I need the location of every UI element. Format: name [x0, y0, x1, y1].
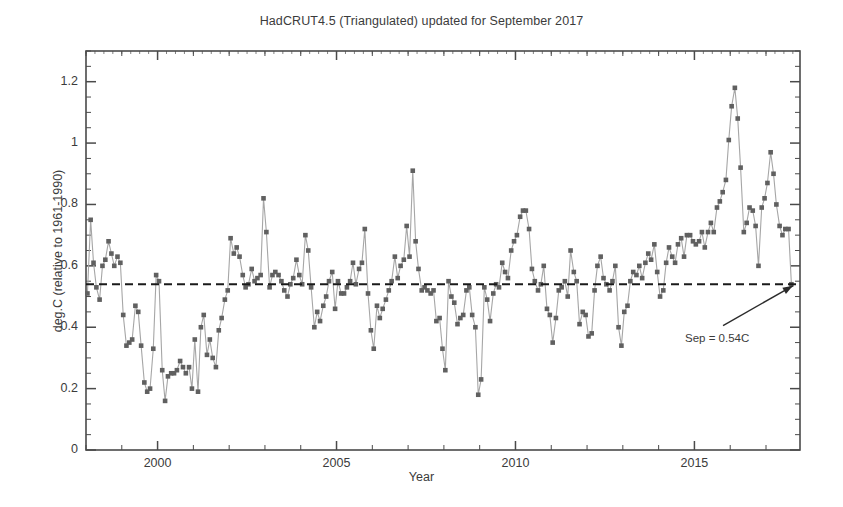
data-point — [488, 319, 493, 324]
annotation-arrow-line — [723, 286, 793, 326]
data-point — [446, 279, 451, 284]
data-point — [753, 224, 758, 229]
data-point — [592, 288, 597, 293]
data-point — [133, 303, 138, 308]
y-axis-label: deg.C (relative to 1961-1990) — [51, 101, 65, 401]
data-point — [103, 257, 108, 262]
data-point — [503, 270, 508, 275]
data-point — [333, 307, 338, 312]
data-point — [497, 285, 502, 290]
data-point — [506, 276, 511, 281]
data-point — [285, 294, 290, 299]
data-point — [628, 279, 633, 284]
data-point — [568, 248, 573, 253]
data-point — [452, 300, 457, 305]
data-point — [264, 230, 269, 235]
data-point — [437, 316, 442, 321]
data-point — [664, 260, 669, 265]
data-point — [190, 386, 195, 391]
data-point — [554, 316, 559, 321]
data-point — [402, 257, 407, 262]
data-point — [768, 150, 773, 155]
data-point — [533, 279, 538, 284]
data-point — [559, 285, 564, 290]
x-tick-label: 2000 — [128, 456, 188, 470]
data-point — [572, 270, 577, 275]
data-point — [574, 279, 579, 284]
data-point — [440, 346, 445, 351]
data-point — [709, 221, 714, 226]
data-point — [196, 389, 201, 394]
data-point — [762, 196, 767, 201]
data-point — [733, 86, 738, 91]
data-point — [112, 264, 117, 269]
data-point — [312, 325, 317, 330]
data-point — [431, 288, 436, 293]
data-point — [369, 328, 374, 333]
data-point — [413, 239, 418, 244]
data-point — [780, 233, 785, 238]
data-point — [223, 297, 228, 302]
annotation-arrow-head — [782, 286, 792, 294]
data-point — [97, 297, 102, 302]
data-point — [309, 285, 314, 290]
data-point — [348, 279, 353, 284]
data-point — [643, 260, 648, 265]
data-point — [622, 310, 627, 315]
data-point — [157, 279, 162, 284]
data-point — [667, 245, 672, 250]
data-point — [673, 260, 678, 265]
data-point — [395, 276, 400, 281]
data-point — [163, 399, 168, 404]
data-point — [237, 254, 242, 259]
data-point — [619, 343, 624, 348]
data-point — [416, 267, 421, 272]
data-point — [548, 313, 553, 318]
data-point — [646, 251, 651, 256]
data-point — [786, 227, 791, 232]
data-point — [479, 377, 484, 382]
data-point — [449, 294, 454, 299]
data-point — [330, 270, 335, 275]
data-point — [724, 178, 729, 183]
series-markers — [85, 86, 794, 404]
data-point — [688, 233, 693, 238]
data-point — [91, 260, 96, 265]
data-point — [640, 276, 645, 281]
data-point — [106, 239, 111, 244]
data-point — [109, 251, 114, 256]
data-point — [652, 242, 657, 247]
data-point — [85, 291, 90, 296]
data-point — [443, 368, 448, 373]
data-point — [181, 365, 186, 370]
data-point — [282, 288, 287, 293]
data-point — [545, 307, 550, 312]
data-point — [315, 310, 320, 315]
data-point — [121, 313, 126, 318]
data-point — [234, 245, 239, 250]
data-point — [726, 138, 731, 143]
data-point — [357, 267, 362, 272]
data-point — [583, 313, 588, 318]
data-point — [735, 116, 740, 121]
data-point — [706, 230, 711, 235]
data-point — [670, 254, 675, 259]
data-point — [774, 202, 779, 207]
data-point — [148, 386, 153, 391]
data-point — [598, 254, 603, 259]
x-tick-label: 2010 — [485, 456, 545, 470]
data-point — [595, 264, 600, 269]
data-point — [327, 279, 332, 284]
data-point — [589, 331, 594, 336]
data-point — [756, 264, 761, 269]
data-point — [160, 368, 165, 373]
data-point — [518, 214, 523, 219]
data-point — [154, 273, 159, 278]
chart-plot-area — [0, 0, 843, 507]
data-point — [744, 221, 749, 226]
data-point — [601, 276, 606, 281]
data-point — [363, 227, 368, 232]
data-point — [467, 285, 472, 290]
y-tick-label: 0 — [32, 442, 78, 456]
data-point — [473, 325, 478, 330]
